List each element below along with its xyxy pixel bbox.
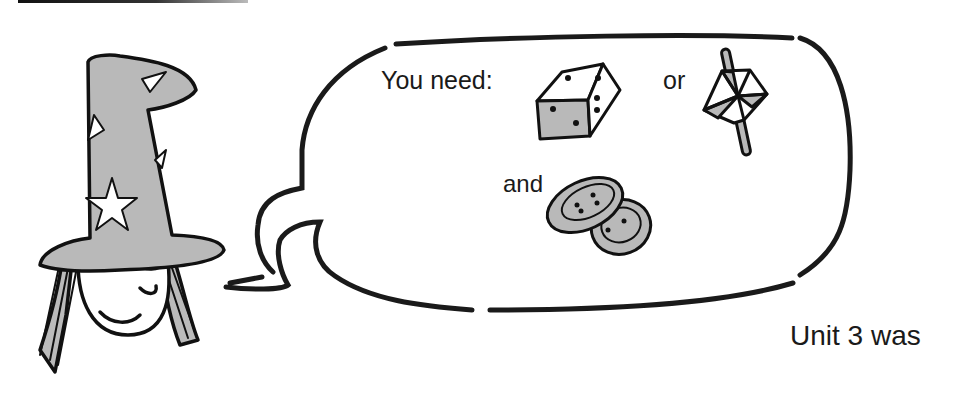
you-need-label: You need: [381, 66, 493, 95]
unit-footer-text: Unit 3 was [790, 320, 921, 352]
spinner-icon [704, 48, 767, 155]
buttons-icon [539, 166, 659, 262]
witch-character [40, 55, 224, 372]
or-connector: or [663, 66, 685, 95]
and-connector: and [503, 170, 543, 198]
die-icon [537, 64, 620, 139]
worksheet-page: You need: or and Unit 3 was [0, 0, 960, 402]
